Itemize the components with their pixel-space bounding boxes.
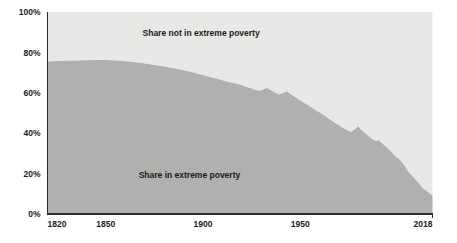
y-tick-label-20: 20%	[23, 169, 40, 179]
x-tick-label-1900: 1900	[194, 219, 213, 229]
y-tick-label-0: 0%	[28, 209, 41, 219]
y-tick-label-40: 40%	[23, 128, 40, 138]
y-tick-label-80: 80%	[23, 48, 40, 58]
y-tick-label-100: 100%	[19, 7, 41, 17]
x-tick-label-2018: 2018	[414, 219, 433, 229]
y-tick-label-60: 60%	[23, 88, 40, 98]
chart-page: 0%20%40%60%80%100% 18201850190019502018 …	[0, 0, 457, 243]
y-axis-tick-labels: 0%20%40%60%80%100%	[19, 7, 41, 219]
poverty-share-chart: 0%20%40%60%80%100% 18201850190019502018 …	[0, 0, 457, 243]
annotation-not-in-extreme-poverty: Share not in extreme poverty	[143, 28, 260, 38]
annotation-in-extreme-poverty: Share in extreme poverty	[139, 170, 241, 180]
chart-canvas: 0%20%40%60%80%100% 18201850190019502018 …	[0, 0, 457, 243]
x-tick-label-1850: 1850	[96, 219, 115, 229]
x-tick-label-1820: 1820	[48, 219, 67, 229]
x-axis-tick-labels: 18201850190019502018	[48, 219, 433, 229]
x-tick-label-1950: 1950	[291, 219, 310, 229]
